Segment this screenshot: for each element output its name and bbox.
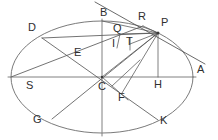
point-label-R: R [138,11,146,22]
point-label-C: C [98,81,106,92]
point-marker-P [157,32,160,35]
point-label-S: S [26,80,33,91]
point-label-I: I [112,38,115,49]
point-label-A: A [197,64,204,75]
point-label-K: K [160,115,167,126]
point-label-H: H [154,79,162,90]
point-label-G: G [33,114,42,125]
point-label-Q: Q [113,23,122,34]
point-label-D: D [28,22,36,33]
point-label-B: B [100,7,107,18]
point-label-F: F [118,92,125,103]
point-label-P: P [161,17,168,28]
point-label-T: T [126,36,133,47]
segment-line-RP [143,26,158,33]
point-label-E: E [74,47,81,58]
geometry-figure: A B C D E F G H I K P Q R S T [0,0,218,140]
segment-line-inner-cross [112,60,140,86]
diameter-line-DK [42,38,158,120]
segment-line-TP [130,33,158,44]
tangent-line-at-P [95,2,205,64]
point-marker-C [101,76,103,78]
